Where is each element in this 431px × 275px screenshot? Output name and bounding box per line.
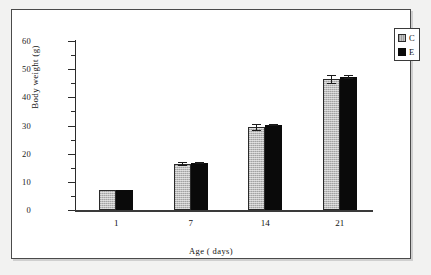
bar-group bbox=[248, 41, 282, 210]
x-axis-title: Age ( days) bbox=[12, 246, 410, 256]
y-tick-major bbox=[68, 182, 75, 183]
legend-swatch-e-icon bbox=[398, 48, 406, 56]
legend-item-e: E bbox=[398, 46, 415, 57]
x-tick-label: 7 bbox=[151, 218, 231, 228]
legend-label: C bbox=[409, 34, 415, 42]
legend: CE bbox=[394, 28, 420, 61]
y-axis-title: Body weight (g) bbox=[30, 12, 40, 142]
bar-e-14 bbox=[265, 125, 282, 210]
error-bar-cap-bottom bbox=[178, 165, 187, 166]
bar-e-21 bbox=[340, 77, 357, 210]
error-bar-cap-top bbox=[344, 75, 353, 76]
legend-item-c: C bbox=[398, 32, 415, 43]
error-bar-e-14 bbox=[269, 124, 278, 126]
error-bar-c-14 bbox=[252, 124, 261, 131]
x-tick-label: 21 bbox=[300, 218, 380, 228]
x-tick-label: 1 bbox=[76, 218, 156, 228]
y-tick-major bbox=[68, 210, 75, 211]
x-tick-label: 14 bbox=[225, 218, 305, 228]
error-bar-cap-bottom bbox=[269, 125, 278, 126]
error-bar-c-7 bbox=[178, 162, 187, 166]
error-bar-e-21 bbox=[344, 75, 353, 78]
error-bar-cap-top bbox=[327, 75, 336, 76]
y-tick-label: 0 bbox=[0, 205, 31, 215]
error-bar-e-7 bbox=[195, 162, 204, 164]
bar-group bbox=[99, 41, 133, 210]
error-bar-cap-top bbox=[178, 162, 187, 163]
bar-group bbox=[174, 41, 208, 210]
plot-area bbox=[75, 41, 373, 210]
figure-container: 0102030405060 Body weight (g) 171421 Age… bbox=[0, 0, 431, 275]
y-tick-label: 30 bbox=[0, 121, 31, 131]
bar-c-14 bbox=[248, 127, 265, 210]
error-bar-cap-bottom bbox=[327, 83, 336, 84]
y-tick-label: 40 bbox=[0, 92, 31, 102]
error-bar-cap-top bbox=[252, 124, 261, 125]
error-bar-cap-bottom bbox=[344, 78, 353, 79]
error-bar-cap-bottom bbox=[195, 163, 204, 164]
y-tick-label: 50 bbox=[0, 64, 31, 74]
y-tick-major bbox=[68, 69, 75, 70]
legend-label: E bbox=[409, 48, 414, 56]
bar-c-7 bbox=[174, 164, 191, 210]
y-tick-major bbox=[68, 126, 75, 127]
y-tick-label: 10 bbox=[0, 177, 31, 187]
bar-e-7 bbox=[191, 163, 208, 210]
error-bar-cap-bottom bbox=[252, 130, 261, 131]
error-bar-c-21 bbox=[327, 75, 336, 83]
figure-frame: 0102030405060 Body weight (g) 171421 Age… bbox=[11, 9, 411, 259]
x-axis-line bbox=[75, 210, 373, 212]
y-tick-label: 60 bbox=[0, 36, 31, 46]
y-tick-label: 20 bbox=[0, 149, 31, 159]
y-tick-major bbox=[68, 97, 75, 98]
bar-c-1 bbox=[99, 190, 116, 210]
bar-c-21 bbox=[323, 79, 340, 210]
bar-group bbox=[323, 41, 357, 210]
y-tick-major bbox=[68, 41, 75, 42]
legend-swatch-c-icon bbox=[398, 34, 406, 42]
y-tick-major bbox=[68, 154, 75, 155]
bar-e-1 bbox=[116, 190, 133, 210]
